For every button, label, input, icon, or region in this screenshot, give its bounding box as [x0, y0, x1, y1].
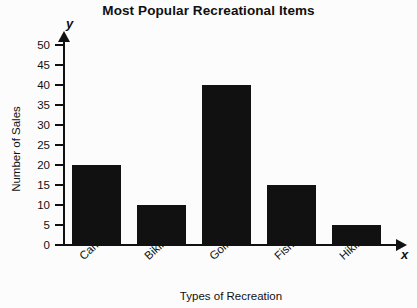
y-axis-tick-label: 15: [22, 179, 50, 191]
y-axis-tick-label: 50: [22, 39, 50, 51]
bar: [202, 85, 251, 245]
y-axis-line: [63, 40, 65, 246]
x-axis-title: Types of Recreation: [63, 290, 399, 302]
y-axis-tick: [55, 124, 64, 126]
y-axis-letter: y: [66, 16, 73, 31]
y-axis-tick: [55, 184, 64, 186]
y-axis-title: Number of Sales: [10, 89, 22, 209]
y-axis-tick: [55, 144, 64, 146]
y-axis-tick: [55, 244, 64, 246]
y-axis-tick-label: 0: [22, 239, 50, 251]
y-axis-tick-label: 35: [22, 99, 50, 111]
y-axis-tick: [55, 104, 64, 106]
plot-area: y x 05101520253035404550 CampingBikingGo…: [0, 0, 417, 308]
y-axis-tick-label: 5: [22, 219, 50, 231]
y-axis-tick: [55, 64, 64, 66]
y-axis-tick-label: 45: [22, 59, 50, 71]
y-axis-tick-label: 30: [22, 119, 50, 131]
y-axis-tick-label: 40: [22, 79, 50, 91]
y-axis-tick: [55, 44, 64, 46]
y-axis-tick: [55, 164, 64, 166]
y-axis-arrow-icon: [58, 31, 70, 42]
y-axis-tick-label: 25: [22, 139, 50, 151]
y-axis-tick: [55, 204, 64, 206]
y-axis-tick-label: 10: [22, 199, 50, 211]
chart-screenshot: Most Popular Recreational Items y x 0510…: [0, 0, 417, 308]
x-axis-letter: x: [401, 247, 408, 262]
y-axis-tick: [55, 224, 64, 226]
y-axis-tick-label: 20: [22, 159, 50, 171]
y-axis-tick: [55, 84, 64, 86]
